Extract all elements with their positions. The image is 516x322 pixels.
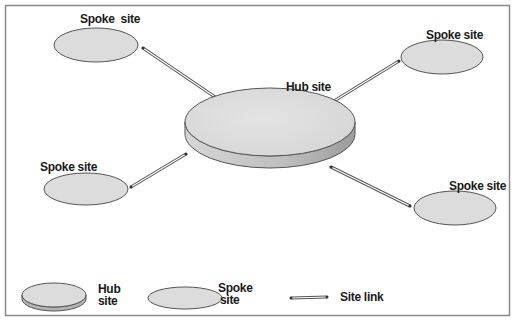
hub-site-label: Hub site [286, 80, 332, 94]
hub-site-node [185, 88, 355, 168]
legend-hub-label-line2: site [98, 294, 118, 308]
legend-site-link-label: Site link [340, 290, 384, 304]
spoke-site-top-left-node [54, 28, 138, 62]
spoke-site-right-node [414, 191, 496, 225]
legend-spoke-icon [148, 287, 222, 309]
spoke-site-right-label: Spoke site [449, 179, 507, 193]
hub-spoke-diagram: Hub site Spoke site Spoke site Spoke sit… [0, 0, 516, 322]
legend-hub-icon [22, 283, 86, 311]
spoke-site-top-right-label: Spoke site [426, 28, 484, 42]
legend-spoke-label-line2: site [220, 293, 240, 307]
spoke-site-top-left-label: Spoke site [80, 12, 141, 26]
spoke-site-left-label: Spoke site [40, 160, 98, 174]
spoke-site-left-node [44, 173, 128, 205]
spoke-site-top-right-node [401, 40, 483, 74]
